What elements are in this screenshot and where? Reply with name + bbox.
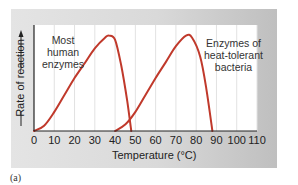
y-axis-label: Rate of reaction [14, 23, 28, 133]
x-tick-label: 40 [109, 134, 121, 146]
x-tick-label: 80 [190, 134, 202, 146]
x-tick-label: 0 [31, 134, 37, 146]
x-tick-label: 70 [170, 134, 182, 146]
x-tick-label: 90 [210, 134, 222, 146]
x-tick-label: 100 [228, 134, 246, 146]
x-tick-label: 110 [248, 134, 266, 146]
x-tick-label: 10 [48, 134, 60, 146]
annotation-bacteria-enzymes: Enzymes of heat-tolerant bacteria [204, 37, 263, 73]
x-tick-label: 20 [68, 134, 80, 146]
x-tick-label: 50 [129, 134, 141, 146]
figure-caption: (a) [10, 172, 21, 183]
x-axis-label: Temperature (°C) [112, 149, 196, 161]
x-tick-label: 60 [150, 134, 162, 146]
annotation-human-enzymes: Most human enzymes [42, 34, 84, 70]
x-tick-label: 30 [89, 134, 101, 146]
